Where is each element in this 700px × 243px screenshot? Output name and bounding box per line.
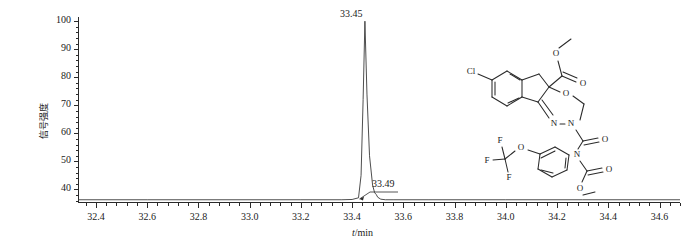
- bond-c-oring: [549, 87, 560, 92]
- shoulder-peak-label: 33.49: [372, 178, 395, 189]
- bond-o-methyl-top: [559, 39, 571, 48]
- bond-ring-ocf3: [528, 150, 540, 154]
- atom-label-n-ring: N: [568, 118, 575, 128]
- atom-label-o-amide: O: [602, 134, 609, 144]
- molecular-structure-inset: Cl O O O N N O N: [452, 8, 672, 198]
- bond-carb-co-a: [587, 168, 602, 171]
- bond-oring-ch2: [573, 96, 584, 104]
- atom-label-o-carbamate-ester: O: [577, 183, 584, 193]
- bond-c-o-ester-top: [558, 61, 562, 76]
- bond-carb-o-methyl: [583, 192, 595, 195]
- main-peak-label: 33.45: [340, 8, 363, 19]
- bond-carb-co-b: [588, 172, 603, 175]
- bond-cn-double-a: [538, 102, 549, 118]
- atom-label-cl: Cl: [467, 66, 476, 76]
- benzene-ring-ocf3: [538, 147, 569, 177]
- bond-camide-namide: [578, 141, 583, 149]
- bond-o-cf3: [505, 151, 515, 159]
- atom-label-n-imine: N: [551, 118, 558, 128]
- bond-cf-3: [505, 159, 508, 172]
- bond-cn-double-b: [542, 100, 553, 115]
- atom-label-f1: F: [497, 135, 502, 145]
- atom-label-n-amide: N: [574, 149, 581, 159]
- bond-carb-o-ester: [582, 171, 587, 182]
- bond-namide-ccarb: [580, 161, 587, 171]
- cyclopentane-ring: [522, 74, 549, 102]
- atom-label-o-carbamate-carbonyl: O: [606, 164, 613, 174]
- bond-nring-camide: [576, 130, 583, 141]
- bond-cf-1: [502, 147, 505, 159]
- atom-label-o-ring: O: [563, 88, 570, 98]
- bond-c-cl: [478, 74, 492, 80]
- chromatogram-figure: 信号强度 405060708090100 32.432.632.833.033.…: [0, 0, 700, 243]
- atom-label-o-ocf3: O: [518, 142, 525, 152]
- bond-amide-co-a: [583, 138, 598, 141]
- bond-cf-2: [493, 159, 505, 160]
- bond-c-coo: [549, 76, 562, 87]
- bond-amide-co-b: [584, 142, 599, 145]
- atom-label-f3: F: [506, 172, 511, 182]
- atom-label-o-ester-top: O: [553, 48, 560, 58]
- benzene-ring-chloro: [492, 71, 522, 106]
- atom-label-f2: F: [484, 155, 489, 165]
- atom-label-o-carbonyl-top: O: [580, 78, 587, 88]
- bond-ch2-nring: [580, 104, 584, 120]
